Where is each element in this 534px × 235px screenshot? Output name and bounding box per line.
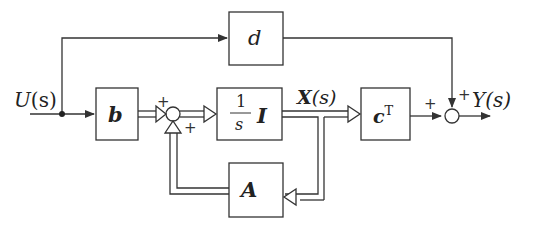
branch-point (59, 111, 65, 117)
block-integrator (217, 88, 282, 140)
integrator-denominator: s (235, 115, 243, 134)
block-A-label: A (239, 177, 257, 202)
integrator-numerator: 1 (236, 92, 246, 111)
block-b-label: b (108, 102, 123, 127)
sum2-sign-top: + (458, 86, 471, 104)
vector-arrow-state-to-A (284, 189, 296, 205)
sum2-sign-left: + (424, 95, 437, 113)
summing-junction-2 (445, 109, 459, 123)
vector-arrow-A-to-sum (165, 121, 229, 194)
output-label: Y(s) (472, 88, 511, 112)
integrator-matrix: I (256, 103, 268, 128)
block-d-label: d (248, 26, 261, 50)
vector-arrow-state-to-c (282, 106, 360, 200)
feedthrough-line (62, 38, 227, 114)
block-c-label: cT (373, 103, 394, 127)
state-label: X(s) (296, 86, 336, 108)
block-diagram: U(s) d b 1 s I X(s) cT A Y(s) + + + + (0, 0, 534, 235)
sum1-sign-bottom: + (184, 119, 197, 137)
sum1-sign-top: + (157, 93, 170, 111)
input-label: U(s) (14, 88, 57, 112)
